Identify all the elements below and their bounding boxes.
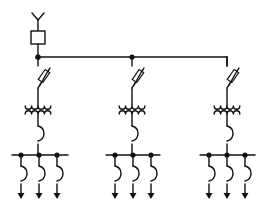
primary-winding: [25, 106, 51, 109]
load-arrow-icon: [224, 193, 231, 199]
load-arrow-icon: [130, 193, 137, 199]
feeder: [112, 152, 122, 199]
fuse-icon: [132, 68, 144, 88]
switch-icon: [227, 126, 233, 141]
fuse-icon: [227, 68, 239, 88]
switch-icon: [133, 166, 139, 181]
load-arrow-icon: [36, 193, 43, 199]
switch-icon: [39, 166, 45, 181]
feeder: [54, 152, 64, 199]
switch-icon: [38, 126, 44, 141]
branches: [12, 54, 255, 199]
antenna-arm: [38, 13, 44, 20]
feeder: [36, 152, 46, 199]
feeder: [242, 152, 252, 199]
source: [31, 13, 45, 60]
feeder: [148, 152, 158, 199]
primary-winding: [214, 106, 240, 109]
feeder: [224, 152, 234, 199]
transformer-icon: [119, 106, 145, 114]
feeder: [130, 152, 140, 199]
load-arrow-icon: [54, 193, 61, 199]
feeder: [18, 152, 28, 199]
branch-right: [200, 57, 255, 199]
load-arrow-icon: [206, 193, 213, 199]
antenna-arm: [32, 13, 38, 20]
transformer-icon: [214, 106, 240, 114]
switch-icon: [115, 166, 121, 181]
branch-left: [12, 54, 68, 199]
antenna-icon: [32, 13, 44, 31]
load-arrow-icon: [112, 193, 119, 199]
switch-icon: [132, 126, 138, 141]
switch-icon: [57, 166, 63, 181]
switch-icon: [227, 166, 233, 181]
switch-icon: [209, 166, 215, 181]
transformer-icon: [25, 106, 51, 114]
fuse-icon: [38, 68, 50, 88]
source-box-icon: [31, 31, 45, 44]
load-arrow-icon: [242, 193, 249, 199]
branch-middle: [106, 54, 160, 199]
primary-winding: [119, 106, 145, 109]
feeder: [206, 152, 216, 199]
switch-icon: [151, 166, 157, 181]
load-arrow-icon: [18, 193, 25, 199]
distribution-diagram: [0, 0, 266, 210]
switch-icon: [245, 166, 251, 181]
switch-icon: [21, 166, 27, 181]
load-arrow-icon: [148, 193, 155, 199]
